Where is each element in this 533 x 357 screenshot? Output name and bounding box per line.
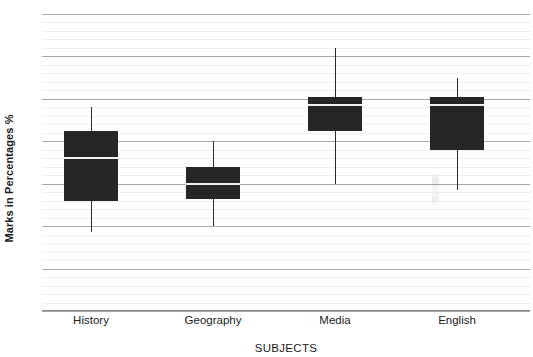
x-axis-tick-label: History	[73, 314, 109, 326]
x-axis-tick-label: English	[438, 314, 476, 326]
median-line	[186, 183, 240, 185]
box-iqr	[308, 97, 362, 131]
median-line	[64, 157, 118, 159]
y-axis-title: Marks in Percentages %	[0, 0, 18, 357]
box-plot	[64, 14, 118, 311]
box-iqr	[64, 131, 118, 201]
x-axis-title: SUBJECTS	[42, 342, 530, 354]
x-axis-line	[42, 310, 530, 311]
gridline-major	[42, 311, 530, 312]
plot-area	[42, 14, 530, 311]
box-plot	[430, 14, 484, 311]
scan-artifact	[432, 172, 439, 208]
box-plot	[186, 14, 240, 311]
box-plot-figure: Marks in Percentages % 30405060708090100…	[0, 0, 533, 357]
median-line	[430, 104, 484, 106]
box-plot	[308, 14, 362, 311]
x-axis-tick-label: Geography	[185, 314, 242, 326]
median-line	[308, 104, 362, 106]
x-axis-tick-label: Media	[319, 314, 350, 326]
